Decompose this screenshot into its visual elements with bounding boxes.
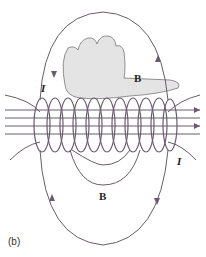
label-I-left: I xyxy=(41,82,45,94)
label-I-right: I xyxy=(177,155,181,167)
solenoid-diagram xyxy=(0,0,206,257)
solenoid-coil xyxy=(34,98,177,152)
label-B-bottom: B xyxy=(99,190,106,202)
label-B-top: B xyxy=(134,72,141,84)
figure-caption: (b) xyxy=(8,236,20,247)
right-hand xyxy=(63,36,179,99)
